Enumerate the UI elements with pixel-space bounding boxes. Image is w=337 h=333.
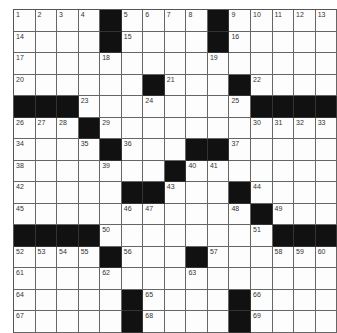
grid-cell[interactable] [294, 139, 316, 161]
grid-cell[interactable]: 60 [316, 247, 337, 269]
grid-cell[interactable] [100, 75, 122, 97]
grid-cell[interactable]: 29 [100, 118, 122, 140]
grid-cell[interactable]: 37 [229, 139, 251, 161]
grid-cell[interactable] [122, 161, 144, 183]
grid-cell[interactable]: 31 [273, 118, 295, 140]
grid-cell[interactable]: 5 [122, 10, 144, 32]
grid-cell[interactable] [208, 290, 230, 312]
grid-cell[interactable] [165, 139, 187, 161]
grid-cell[interactable] [36, 290, 58, 312]
grid-cell[interactable] [273, 182, 295, 204]
grid-cell[interactable] [165, 290, 187, 312]
grid-cell[interactable]: 21 [165, 75, 187, 97]
grid-cell[interactable] [273, 75, 295, 97]
grid-cell[interactable] [229, 161, 251, 183]
grid-cell[interactable] [208, 118, 230, 140]
grid-cell[interactable] [273, 290, 295, 312]
grid-cell[interactable] [57, 204, 79, 226]
grid-cell[interactable] [294, 75, 316, 97]
grid-cell[interactable] [143, 118, 165, 140]
grid-cell[interactable] [36, 311, 58, 333]
grid-cell[interactable]: 45 [14, 204, 36, 226]
grid-cell[interactable]: 25 [229, 96, 251, 118]
grid-cell[interactable] [316, 75, 337, 97]
grid-cell[interactable] [79, 290, 101, 312]
grid-cell[interactable] [79, 53, 101, 75]
grid-cell[interactable] [165, 225, 187, 247]
grid-cell[interactable] [79, 161, 101, 183]
grid-cell[interactable]: 64 [14, 290, 36, 312]
grid-cell[interactable]: 38 [14, 161, 36, 183]
grid-cell[interactable] [294, 311, 316, 333]
grid-cell[interactable] [57, 139, 79, 161]
grid-cell[interactable] [294, 204, 316, 226]
grid-cell[interactable]: 16 [229, 32, 251, 54]
grid-cell[interactable] [208, 268, 230, 290]
grid-cell[interactable]: 36 [122, 139, 144, 161]
grid-cell[interactable]: 61 [14, 268, 36, 290]
grid-cell[interactable] [36, 75, 58, 97]
grid-cell[interactable]: 7 [165, 10, 187, 32]
grid-cell[interactable] [143, 139, 165, 161]
grid-cell[interactable]: 22 [251, 75, 273, 97]
grid-cell[interactable]: 23 [79, 96, 101, 118]
grid-cell[interactable] [208, 96, 230, 118]
grid-cell[interactable] [251, 161, 273, 183]
grid-cell[interactable]: 50 [100, 225, 122, 247]
grid-cell[interactable]: 52 [14, 247, 36, 269]
grid-cell[interactable] [122, 53, 144, 75]
grid-cell[interactable] [143, 225, 165, 247]
grid-cell[interactable]: 3 [57, 10, 79, 32]
grid-cell[interactable] [57, 75, 79, 97]
grid-cell[interactable]: 30 [251, 118, 273, 140]
grid-cell[interactable]: 56 [122, 247, 144, 269]
grid-cell[interactable] [316, 32, 337, 54]
grid-cell[interactable]: 4 [79, 10, 101, 32]
grid-cell[interactable] [186, 53, 208, 75]
grid-cell[interactable]: 46 [122, 204, 144, 226]
grid-cell[interactable] [36, 53, 58, 75]
grid-cell[interactable] [79, 204, 101, 226]
grid-cell[interactable]: 69 [251, 311, 273, 333]
grid-cell[interactable] [208, 204, 230, 226]
grid-cell[interactable] [186, 32, 208, 54]
grid-cell[interactable]: 62 [100, 268, 122, 290]
grid-cell[interactable]: 2 [36, 10, 58, 32]
grid-cell[interactable] [186, 118, 208, 140]
grid-cell[interactable] [294, 290, 316, 312]
grid-cell[interactable] [186, 290, 208, 312]
grid-cell[interactable] [316, 290, 337, 312]
grid-cell[interactable]: 6 [143, 10, 165, 32]
grid-cell[interactable] [57, 268, 79, 290]
grid-cell[interactable]: 35 [79, 139, 101, 161]
grid-cell[interactable] [57, 182, 79, 204]
grid-cell[interactable] [229, 53, 251, 75]
grid-cell[interactable] [57, 32, 79, 54]
grid-cell[interactable]: 18 [100, 53, 122, 75]
grid-cell[interactable]: 47 [143, 204, 165, 226]
grid-cell[interactable] [208, 182, 230, 204]
grid-cell[interactable] [165, 53, 187, 75]
grid-cell[interactable] [143, 268, 165, 290]
grid-cell[interactable] [165, 32, 187, 54]
grid-cell[interactable] [122, 118, 144, 140]
grid-cell[interactable] [294, 182, 316, 204]
grid-cell[interactable] [186, 311, 208, 333]
grid-cell[interactable] [36, 32, 58, 54]
grid-cell[interactable] [57, 290, 79, 312]
grid-cell[interactable] [251, 139, 273, 161]
grid-cell[interactable] [143, 247, 165, 269]
grid-cell[interactable] [57, 161, 79, 183]
grid-cell[interactable]: 39 [100, 161, 122, 183]
grid-cell[interactable] [186, 75, 208, 97]
grid-cell[interactable] [273, 32, 295, 54]
grid-cell[interactable] [294, 32, 316, 54]
grid-cell[interactable]: 10 [251, 10, 273, 32]
grid-cell[interactable] [186, 182, 208, 204]
grid-cell[interactable] [143, 32, 165, 54]
grid-cell[interactable]: 68 [143, 311, 165, 333]
grid-cell[interactable]: 14 [14, 32, 36, 54]
grid-cell[interactable] [316, 268, 337, 290]
grid-cell[interactable] [273, 161, 295, 183]
grid-cell[interactable] [79, 311, 101, 333]
